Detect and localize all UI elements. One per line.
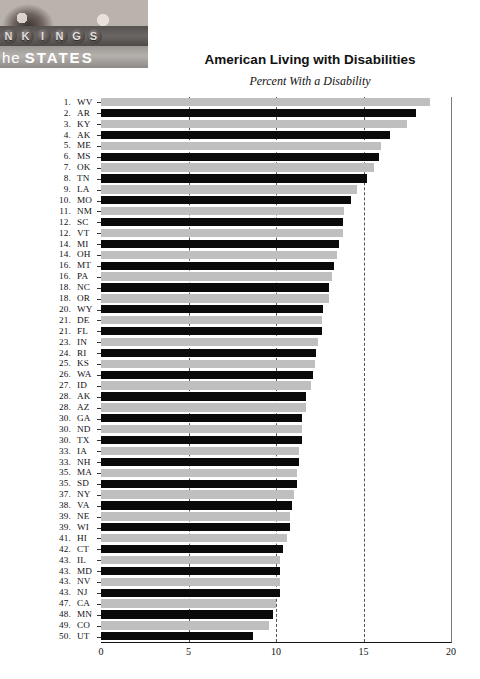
axis-tickmark [97, 190, 101, 191]
rank-number: 24. [51, 348, 71, 358]
row-label-mn: 48.MN [51, 609, 101, 619]
axis-tickmark [97, 201, 101, 202]
row-label-sd: 35.SD [51, 478, 101, 488]
row-label-wi: 39.WI [51, 522, 101, 532]
plot-area [101, 97, 452, 643]
bar-nc [101, 283, 329, 291]
axis-tickmark [97, 440, 101, 441]
bar-row [101, 304, 451, 315]
bar-co [101, 621, 269, 629]
bar-mi [101, 240, 339, 248]
bar-nh [101, 458, 299, 466]
rank-number: 43. [51, 576, 71, 586]
rank-number: 18. [51, 293, 71, 303]
row-label-or: 18.OR [51, 293, 101, 303]
rank-number: 35. [51, 478, 71, 488]
bar-ks [101, 360, 315, 368]
row-label-nh: 33.NH [51, 457, 101, 467]
bar-nm [101, 207, 344, 215]
bar-wv [101, 98, 430, 106]
bar-row [101, 435, 451, 446]
bar-de [101, 316, 322, 324]
bar-row [101, 195, 451, 206]
rank-number: 14. [51, 239, 71, 249]
bar-row [101, 391, 451, 402]
row-label-co: 49.CO [51, 620, 101, 630]
axis-tickmark [97, 593, 101, 594]
rank-number: 12. [51, 228, 71, 238]
axis-tickmark [97, 233, 101, 234]
rank-number: 48. [51, 609, 71, 619]
bar-row [101, 239, 451, 250]
row-label-fl: 21.FL [51, 326, 101, 336]
axis-tickmark [97, 637, 101, 638]
rank-number: 12. [51, 217, 71, 227]
row-label-nc: 18.NC [51, 282, 101, 292]
rank-number: 2. [51, 108, 71, 118]
bar-row [101, 271, 451, 282]
bar-row [101, 424, 451, 435]
rank-number: 11. [51, 206, 71, 216]
bar-sc [101, 218, 343, 226]
bar-or [101, 294, 329, 302]
axis-tickmark [97, 484, 101, 485]
row-label-ia: 33.IA [51, 446, 101, 456]
rank-number: 16. [51, 271, 71, 281]
bar-vt [101, 229, 343, 237]
row-label-ny: 37.NY [51, 489, 101, 499]
bar-nd [101, 425, 302, 433]
bar-row [101, 413, 451, 424]
axis-tickmark [97, 113, 101, 114]
rank-number: 49. [51, 620, 71, 630]
bar-row [101, 446, 451, 457]
bar-sd [101, 480, 297, 488]
bar-row [101, 555, 451, 566]
rank-number: 26. [51, 369, 71, 379]
row-label-az: 28.AZ [51, 402, 101, 412]
bar-row [101, 250, 451, 261]
row-label-ky: 3.KY [51, 119, 101, 129]
axis-tickmark [97, 506, 101, 507]
axis-tickmark [97, 146, 101, 147]
bar-row [101, 206, 451, 217]
axis-tickmark [97, 571, 101, 572]
axis-tickmark [97, 473, 101, 474]
rank-number: 14. [51, 249, 71, 259]
rank-number: 50. [51, 631, 71, 641]
bar-ok [101, 163, 374, 171]
x-tick-label: 20 [446, 646, 456, 657]
axis-tickmark [97, 157, 101, 158]
axis-tickmark [97, 626, 101, 627]
rank-number: 30. [51, 413, 71, 423]
row-label-wv: 1.WV [51, 97, 101, 107]
bar-row [101, 162, 451, 173]
axis-tickmark [97, 538, 101, 539]
bar-mt [101, 262, 334, 270]
axis-tickmark [97, 102, 101, 103]
bar-va [101, 501, 292, 509]
bar-ia [101, 447, 299, 455]
rank-number: 21. [51, 315, 71, 325]
axis-tickmark [97, 277, 101, 278]
row-label-ar: 2.AR [51, 108, 101, 118]
bar-row [101, 293, 451, 304]
rank-number: 37. [51, 489, 71, 499]
axis-tickmark [97, 549, 101, 550]
bar-row [101, 511, 451, 522]
bar-row [101, 173, 451, 184]
bar-in [101, 338, 318, 346]
rank-number: 33. [51, 446, 71, 456]
bar-pa [101, 272, 332, 280]
x-tick-label: 10 [271, 646, 281, 657]
rank-number: 47. [51, 598, 71, 608]
rank-number: 4. [51, 130, 71, 140]
rank-number: 35. [51, 467, 71, 477]
axis-tickmark [97, 429, 101, 430]
row-label-ca: 47.CA [51, 598, 101, 608]
bar-row [101, 489, 451, 500]
row-label-ok: 7.OK [51, 162, 101, 172]
axis-tickmark [97, 451, 101, 452]
axis-tickmark [97, 364, 101, 365]
bar-ak [101, 392, 306, 400]
rank-number: 10. [51, 195, 71, 205]
